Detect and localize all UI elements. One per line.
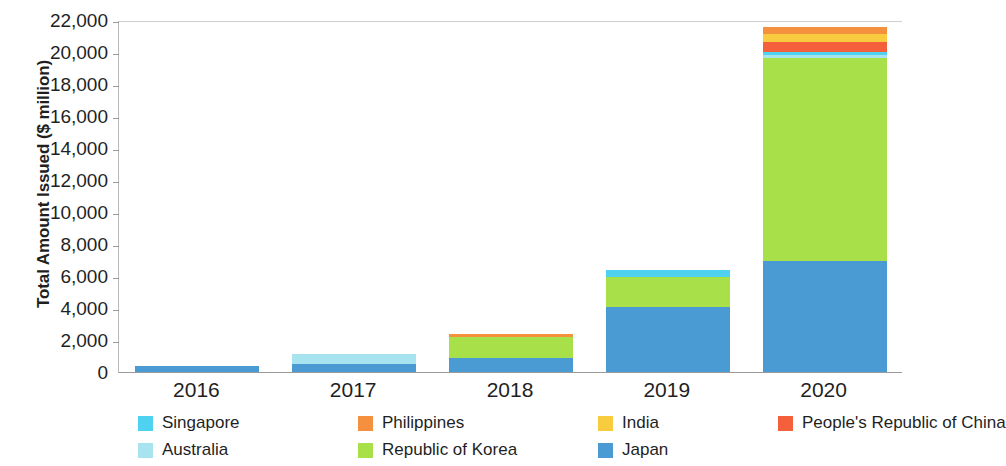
legend-swatch-icon: [358, 416, 373, 431]
x-axis-label-2018: 2018: [450, 378, 570, 402]
plot-area: [118, 21, 902, 373]
bar-segment-2018-republic-of-korea[interactable]: [449, 337, 573, 358]
bar-2016[interactable]: [135, 366, 259, 372]
y-axis-tick: [113, 214, 119, 215]
legend-label: Philippines: [382, 414, 464, 432]
legend-swatch-icon: [598, 443, 613, 458]
legend-item-india[interactable]: India: [598, 414, 659, 432]
legend-label: India: [622, 414, 659, 432]
y-axis-tick: [113, 118, 119, 119]
y-axis-title: Total Amount Issued ($ million): [30, 0, 58, 376]
y-axis-tick: [113, 278, 119, 279]
bar-segment-2020-india[interactable]: [763, 34, 887, 42]
x-axis-label-2020: 2020: [764, 378, 884, 402]
bar-2019[interactable]: [606, 270, 730, 372]
legend-item-singapore[interactable]: Singapore: [138, 414, 240, 432]
legend-item-republic-of-korea[interactable]: Republic of Korea: [358, 441, 517, 459]
bar-segment-2020-people-s-republic-of-china[interactable]: [763, 42, 887, 52]
y-axis-tick: [113, 22, 119, 23]
bar-segment-2019-singapore[interactable]: [606, 270, 730, 277]
bar-segment-2016-japan[interactable]: [135, 366, 259, 372]
legend-swatch-icon: [138, 443, 153, 458]
y-axis-tick: [113, 182, 119, 183]
bar-segment-2020-japan[interactable]: [763, 261, 887, 372]
legend-label: Japan: [622, 441, 668, 459]
y-axis-tick: [113, 246, 119, 247]
x-axis-label-2016: 2016: [136, 378, 256, 402]
x-axis-label-2017: 2017: [293, 378, 413, 402]
legend-swatch-icon: [358, 443, 373, 458]
x-axis-label-2019: 2019: [607, 378, 727, 402]
legend-label: Australia: [162, 441, 228, 459]
legend-item-japan[interactable]: Japan: [598, 441, 668, 459]
bar-2020[interactable]: [763, 27, 887, 372]
y-axis-tick: [113, 150, 119, 151]
bar-segment-2020-republic-of-korea[interactable]: [763, 58, 887, 260]
legend-item-people-s-republic-of-china[interactable]: People's Republic of China: [778, 414, 1006, 432]
legend-swatch-icon: [778, 416, 793, 431]
legend-item-australia[interactable]: Australia: [138, 441, 228, 459]
legend-label: People's Republic of China: [802, 414, 1006, 432]
bar-segment-2017-japan[interactable]: [292, 364, 416, 372]
chart-legend: SingaporePhilippinesIndiaPeople's Republ…: [118, 414, 908, 466]
bar-segment-2019-republic-of-korea[interactable]: [606, 277, 730, 307]
bar-segment-2017-australia[interactable]: [292, 354, 416, 364]
bar-2017[interactable]: [292, 354, 416, 372]
bar-segment-2018-japan[interactable]: [449, 358, 573, 372]
y-axis-tick: [113, 54, 119, 55]
y-axis-tick: [113, 86, 119, 87]
legend-swatch-icon: [138, 416, 153, 431]
legend-item-philippines[interactable]: Philippines: [358, 414, 464, 432]
legend-swatch-icon: [598, 416, 613, 431]
bar-segment-2019-japan[interactable]: [606, 307, 730, 372]
bar-2018[interactable]: [449, 334, 573, 372]
legend-label: Republic of Korea: [382, 441, 517, 459]
y-axis-tick: [113, 310, 119, 311]
legend-label: Singapore: [162, 414, 240, 432]
y-axis-tick: [113, 342, 119, 343]
